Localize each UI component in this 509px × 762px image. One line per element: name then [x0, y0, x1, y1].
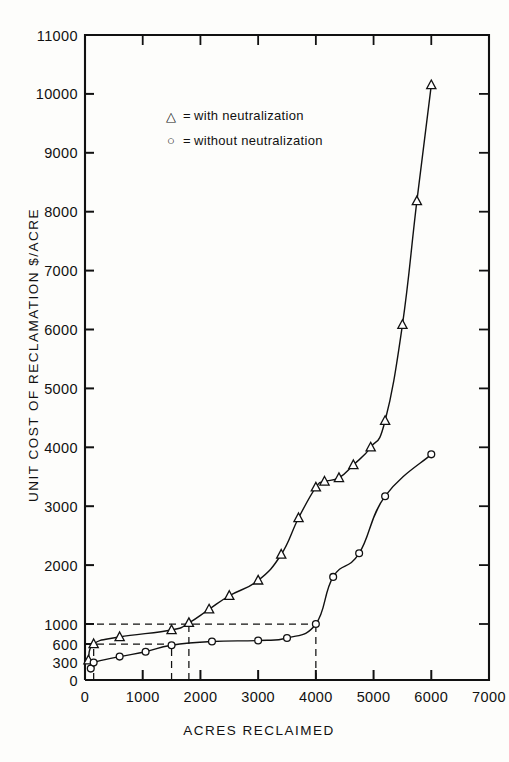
data-point-circle-9: [330, 573, 337, 580]
y-tick-label-10000: 10000: [36, 86, 78, 102]
unit-cost-vs-acres-line-chart: 0300600100020003000400050006000700080009…: [0, 0, 509, 762]
y-tick-label-11000: 11000: [37, 28, 78, 44]
y-axis-title: UNIT COST OF RECLAMATION $/ACRE: [26, 208, 41, 502]
x-tick-label-4000: 4000: [299, 689, 333, 705]
y-tick-label-7000: 7000: [44, 263, 78, 279]
data-point-circle-10: [356, 550, 363, 557]
y-tick-label-0: 0: [70, 673, 78, 689]
data-point-circle-2: [116, 653, 123, 660]
chart-figure: 0300600100020003000400050006000700080009…: [0, 0, 509, 762]
x-tick-label-3000: 3000: [241, 689, 275, 705]
x-tick-label-0: 0: [81, 689, 89, 705]
data-point-circle-8: [312, 621, 319, 628]
legend-label-with-neutralization: with neutralization: [193, 108, 304, 123]
x-tick-label-7000: 7000: [472, 689, 506, 705]
x-tick-label-5000: 5000: [357, 689, 391, 705]
x-tick-label-2000: 2000: [183, 689, 217, 705]
legend-symbol-circle: ○: [167, 133, 175, 148]
legend-label-without-neutralization: without neutralization: [193, 133, 323, 148]
y-tick-label-6000: 6000: [44, 322, 78, 338]
x-tick-label-1000: 1000: [126, 689, 160, 705]
y-tick-label-4000: 4000: [44, 440, 78, 456]
data-point-circle-1: [90, 659, 97, 666]
data-point-circle-3: [142, 648, 149, 655]
y-tick-label-3000: 3000: [44, 499, 78, 515]
data-point-circle-7: [284, 635, 291, 642]
data-point-circle-5: [209, 638, 216, 645]
x-tick-label-6000: 6000: [414, 689, 448, 705]
data-point-circle-12: [428, 451, 435, 458]
y-tick-label-8000: 8000: [44, 204, 78, 220]
y-tick-label-300: 300: [53, 655, 78, 671]
y-tick-label-2000: 2000: [44, 558, 78, 574]
y-tick-label-5000: 5000: [44, 381, 78, 397]
legend-symbol-triangle: △: [166, 109, 176, 124]
legend-equals-1: =: [183, 133, 191, 148]
data-point-circle-11: [382, 493, 389, 500]
data-point-circle-6: [255, 637, 262, 644]
legend-equals-0: =: [183, 108, 191, 123]
y-tick-label-9000: 9000: [44, 145, 78, 161]
data-point-circle-4: [168, 642, 175, 649]
x-axis-title: ACRES RECLAIMED: [183, 723, 335, 738]
y-tick-label-600: 600: [53, 637, 78, 653]
y-tick-label-1000: 1000: [44, 617, 78, 633]
